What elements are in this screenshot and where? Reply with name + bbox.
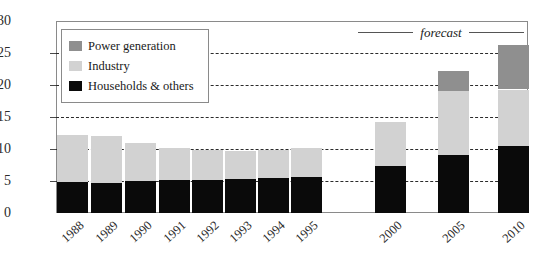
x-tick-label-1994: 1994	[254, 219, 288, 251]
x-tick-label-1991: 1991	[155, 219, 189, 251]
bar-segment-1989-households-others	[91, 183, 122, 213]
bar-group-1994	[258, 21, 289, 213]
y-tick-label-10: 10	[0, 142, 11, 156]
y-tick-label-5: 5	[0, 174, 11, 188]
x-tick-label-1990: 1990	[121, 219, 155, 251]
stacked-bar-chart: 051015202530 forecast Power generation I…	[0, 0, 551, 263]
bar-group-2010	[498, 21, 529, 213]
forecast-annotation: forecast	[358, 24, 524, 40]
bar-segment-1990-industry	[125, 143, 156, 181]
forecast-rule-right	[469, 32, 524, 33]
bar-group-1995	[291, 21, 322, 213]
bar-segment-2010-households-others	[498, 146, 529, 213]
y-tick-label-20: 20	[0, 78, 11, 92]
x-tick-label-1993: 1993	[221, 219, 255, 251]
bar-segment-1990-households-others	[125, 181, 156, 213]
bar-segment-1989-industry	[91, 136, 122, 183]
legend-item-power-generation: Power generation	[69, 36, 201, 56]
forecast-label: forecast	[413, 26, 468, 39]
bar-segment-1994-households-others	[258, 178, 289, 213]
bar-segment-2000-households-others	[375, 166, 406, 213]
x-tick-label-1988: 1988	[53, 219, 87, 251]
bar-segment-1993-households-others	[225, 179, 256, 213]
x-tick-label-1992: 1992	[188, 219, 222, 251]
bar-segment-1994-industry	[258, 150, 289, 178]
x-tick-label-1995: 1995	[287, 219, 321, 251]
bar-segment-1992-industry	[192, 150, 223, 179]
bar-segment-1992-households-others	[192, 180, 223, 213]
bar-segment-1995-industry	[291, 148, 322, 177]
bar-segment-1988-industry	[57, 135, 88, 182]
bar-segment-1995-households-others	[291, 177, 322, 213]
bar-segment-2010-industry	[498, 90, 529, 146]
legend-swatch-industry-icon	[69, 61, 82, 71]
legend-item-industry: Industry	[69, 56, 201, 76]
y-tick-label-30: 30	[0, 14, 11, 28]
legend-swatch-households-others-icon	[69, 81, 82, 91]
bar-group-2005	[438, 21, 469, 213]
bar-segment-1988-households-others	[57, 182, 88, 213]
bar-segment-2005-power-generation	[438, 71, 469, 91]
x-tick-label-1989: 1989	[87, 219, 121, 251]
bar-segment-1993-industry	[225, 151, 256, 179]
y-tick-label-15: 15	[0, 110, 11, 124]
legend-swatch-power-generation-icon	[69, 41, 82, 51]
bar-segment-1991-industry	[159, 148, 190, 179]
y-tick-label-25: 25	[0, 46, 11, 60]
legend-label-households-others: Households & others	[88, 80, 194, 93]
y-tick-label-0: 0	[0, 206, 11, 220]
legend-label-industry: Industry	[88, 60, 130, 73]
bar-segment-2005-industry	[438, 91, 469, 155]
bar-segment-2010-power-generation	[498, 45, 529, 89]
forecast-rule-left	[358, 32, 413, 33]
x-tick-label-2005: 2005	[434, 219, 468, 251]
bar-group-1993	[225, 21, 256, 213]
legend-item-households-others: Households & others	[69, 76, 201, 96]
x-tick-label-2010: 2010	[494, 219, 528, 251]
bar-segment-1991-households-others	[159, 180, 190, 213]
bar-group-2000	[375, 21, 406, 213]
chart-legend: Power generation Industry Households & o…	[61, 29, 209, 103]
bar-segment-2000-industry	[375, 122, 406, 166]
x-tick-label-2000: 2000	[371, 219, 405, 251]
legend-label-power-generation: Power generation	[88, 40, 176, 53]
bar-segment-2005-households-others	[438, 155, 469, 213]
